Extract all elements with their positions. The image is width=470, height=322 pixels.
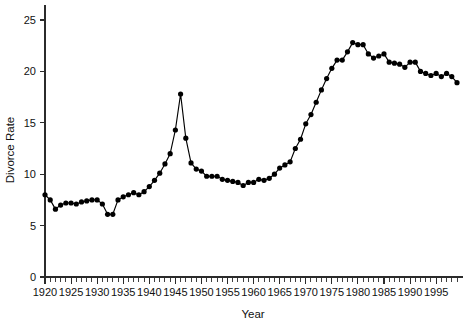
- data-point-marker: [340, 57, 345, 62]
- data-point-marker: [68, 200, 73, 205]
- data-point-marker: [141, 189, 146, 194]
- data-point-marker: [319, 87, 324, 92]
- data-point-marker: [183, 136, 188, 141]
- data-point-marker: [418, 69, 423, 74]
- data-point-marker: [361, 42, 366, 47]
- y-axis-title: Divorce Rate: [4, 117, 16, 183]
- data-point-marker: [209, 174, 214, 179]
- data-point-marker: [256, 177, 261, 182]
- x-axis-tick-label: 1960: [241, 286, 265, 298]
- data-point-marker: [345, 49, 350, 54]
- data-point-marker: [293, 146, 298, 151]
- data-point-marker: [199, 169, 204, 174]
- data-point-marker: [105, 212, 110, 217]
- data-point-marker: [136, 192, 141, 197]
- x-axis-tick-label: 1935: [111, 286, 135, 298]
- data-point-marker: [413, 60, 418, 65]
- y-axis-tick-label: 20: [24, 65, 36, 77]
- x-axis-tick-label: 1925: [59, 286, 83, 298]
- data-point-marker: [173, 127, 178, 132]
- data-point-marker: [48, 197, 53, 202]
- data-point-marker: [371, 55, 376, 60]
- x-axis-tick-label: 1940: [137, 286, 161, 298]
- data-point-marker: [63, 200, 68, 205]
- x-axis-tick-label: 1945: [163, 286, 187, 298]
- data-point-marker: [58, 202, 63, 207]
- data-point-marker: [314, 100, 319, 105]
- data-point-marker: [168, 151, 173, 156]
- data-point-marker: [74, 201, 79, 206]
- data-point-marker: [115, 197, 120, 202]
- x-axis-tick-label: 1980: [346, 286, 370, 298]
- data-point-marker: [324, 76, 329, 81]
- x-axis-tick-label: 1985: [372, 286, 396, 298]
- series-line-divorce-rate: [45, 43, 457, 215]
- data-point-marker: [157, 171, 162, 176]
- data-series-divorce-rate: [42, 40, 459, 217]
- data-point-marker: [397, 62, 402, 67]
- data-point-marker: [215, 174, 220, 179]
- data-point-marker: [298, 137, 303, 142]
- data-point-marker: [230, 179, 235, 184]
- data-point-marker: [355, 42, 360, 47]
- data-point-marker: [444, 71, 449, 76]
- data-point-marker: [152, 178, 157, 183]
- x-axis-tick-label: 1990: [398, 286, 422, 298]
- data-point-marker: [376, 53, 381, 58]
- data-point-marker: [428, 73, 433, 78]
- chart-plot-area: 0510152025 19201925193019351940194519501…: [0, 0, 470, 322]
- data-point-marker: [110, 212, 115, 217]
- data-point-marker: [392, 61, 397, 66]
- data-point-marker: [42, 192, 47, 197]
- data-point-marker: [434, 71, 439, 76]
- data-point-marker: [449, 74, 454, 79]
- data-point-marker: [277, 165, 282, 170]
- data-point-marker: [79, 199, 84, 204]
- data-point-marker: [334, 57, 339, 62]
- data-point-marker: [100, 201, 105, 206]
- y-axis-tick-label: 5: [30, 220, 36, 232]
- x-axis: 1920192519301935194019451950195519601965…: [33, 277, 463, 298]
- x-axis-title: Year: [241, 308, 264, 320]
- data-point-marker: [387, 60, 392, 65]
- y-axis-tick-label: 15: [24, 117, 36, 129]
- data-point-marker: [225, 178, 230, 183]
- data-point-marker: [381, 51, 386, 56]
- data-point-marker: [53, 207, 58, 212]
- data-point-marker: [121, 194, 126, 199]
- data-point-marker: [89, 197, 94, 202]
- data-point-marker: [439, 74, 444, 79]
- data-point-marker: [241, 183, 246, 188]
- data-point-marker: [329, 66, 334, 71]
- y-axis-tick-label: 0: [30, 271, 36, 283]
- x-axis-tick-label: 1970: [294, 286, 318, 298]
- data-point-marker: [131, 190, 136, 195]
- data-point-marker: [454, 80, 459, 85]
- data-point-marker: [308, 112, 313, 117]
- data-point-marker: [188, 160, 193, 165]
- data-point-marker: [251, 180, 256, 185]
- data-point-marker: [366, 51, 371, 56]
- data-point-marker: [204, 174, 209, 179]
- data-point-marker: [194, 166, 199, 171]
- data-point-marker: [235, 180, 240, 185]
- x-axis-tick-label: 1950: [189, 286, 213, 298]
- y-axis-tick-label: 10: [24, 168, 36, 180]
- data-point-marker: [147, 184, 152, 189]
- divorce-rate-chart: 0510152025 19201925193019351940194519501…: [0, 0, 470, 322]
- data-point-marker: [423, 71, 428, 76]
- y-axis: 0510152025: [24, 5, 45, 283]
- data-point-marker: [350, 40, 355, 45]
- y-axis-tick-label: 25: [24, 14, 36, 26]
- data-point-marker: [303, 121, 308, 126]
- data-point-marker: [282, 162, 287, 167]
- x-axis-tick-label: 1955: [215, 286, 239, 298]
- data-point-marker: [220, 177, 225, 182]
- data-point-marker: [162, 161, 167, 166]
- x-axis-tick-label: 1920: [33, 286, 57, 298]
- data-point-marker: [84, 198, 89, 203]
- data-point-marker: [272, 172, 277, 177]
- x-axis-tick-label: 1930: [85, 286, 109, 298]
- data-point-marker: [267, 176, 272, 181]
- x-axis-tick-label: 1975: [320, 286, 344, 298]
